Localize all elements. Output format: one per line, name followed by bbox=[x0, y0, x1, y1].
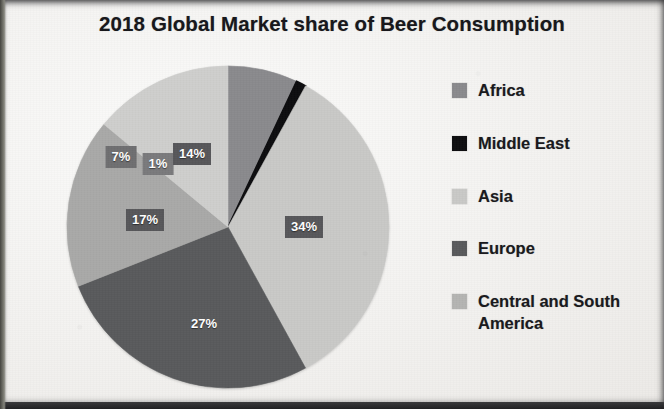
pie-slice-group bbox=[67, 66, 389, 388]
legend-item-label: Asia bbox=[478, 186, 513, 208]
legend-swatch-icon-europe bbox=[452, 241, 467, 256]
legend-swatch-icon-central-and-south-america bbox=[452, 294, 467, 309]
pie-data-label-europe: 27% bbox=[185, 313, 223, 335]
chart-legend: AfricaMiddle EastAsiaEuropeCentral and S… bbox=[452, 80, 652, 335]
legend-swatch-icon-asia bbox=[452, 189, 467, 204]
legend-swatch-icon-middle-east bbox=[452, 136, 467, 151]
legend-item-asia[interactable]: Asia bbox=[452, 186, 652, 208]
legend-item-label: Middle East bbox=[478, 133, 570, 155]
legend-item-africa[interactable]: Africa bbox=[452, 80, 652, 102]
pie-data-label-asia: 34% bbox=[285, 216, 323, 238]
pie-data-label-north-america: 14% bbox=[173, 143, 211, 165]
legend-item-europe[interactable]: Europe bbox=[452, 238, 652, 260]
pie-chart-svg bbox=[66, 65, 390, 389]
legend-item-label: Europe bbox=[478, 238, 535, 260]
pie-data-label-central-south-america: 17% bbox=[126, 209, 164, 231]
chart-title: 2018 Global Market share of Beer Consump… bbox=[0, 12, 664, 36]
pie-chart: 7%1%34%27%17%14% bbox=[66, 65, 390, 389]
chart-page: 2018 Global Market share of Beer Consump… bbox=[0, 0, 664, 409]
pie-data-label-africa: 7% bbox=[106, 146, 137, 168]
legend-swatch-icon-africa bbox=[452, 83, 467, 98]
legend-item-label: Africa bbox=[478, 80, 525, 102]
legend-item-label: Central and SouthAmerica bbox=[478, 291, 620, 335]
legend-item-middle-east[interactable]: Middle East bbox=[452, 133, 652, 155]
pie-data-label-middle-east: 1% bbox=[143, 153, 174, 175]
legend-item-central-and-south-america[interactable]: Central and SouthAmerica bbox=[452, 291, 652, 335]
